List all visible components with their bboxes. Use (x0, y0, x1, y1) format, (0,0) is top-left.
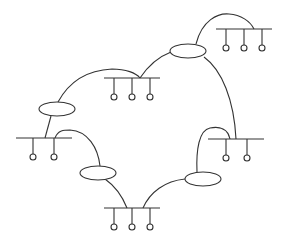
link-router-lower-left-to-lan-bottom (105, 179, 127, 208)
lan-bottom (104, 208, 160, 230)
host-node (30, 154, 36, 160)
link-router-lower-right-to-lan-right (197, 127, 230, 172)
host-node (241, 45, 247, 51)
link-router-left-to-lan-left (45, 116, 51, 138)
host-node (147, 94, 153, 100)
host-node (244, 155, 250, 161)
links (45, 14, 254, 208)
host-node (111, 94, 117, 100)
link-lan-bottom-to-router-lower-right (143, 179, 185, 208)
router-lower-right (185, 172, 221, 186)
lan-right (208, 139, 264, 161)
lan-top-right (216, 29, 272, 51)
router-lower-left (80, 166, 116, 180)
network-diagram (0, 0, 281, 242)
link-lan-left-to-router-lower-left (55, 130, 100, 166)
host-node (223, 155, 229, 161)
router-top (170, 44, 206, 58)
link-lan-upper-middle-to-router-top (140, 52, 171, 78)
host-node (259, 45, 265, 51)
link-router-left-to-lan-upper-middle (58, 69, 140, 102)
host-node (147, 224, 153, 230)
host-node (111, 224, 117, 230)
host-node (51, 154, 57, 160)
lan-left (16, 138, 72, 160)
host-node (129, 94, 135, 100)
host-node (223, 45, 229, 51)
link-router-top-to-lan-right (204, 57, 236, 139)
host-node (129, 224, 135, 230)
router-left (39, 102, 75, 116)
lan-upper-middle (104, 78, 160, 100)
